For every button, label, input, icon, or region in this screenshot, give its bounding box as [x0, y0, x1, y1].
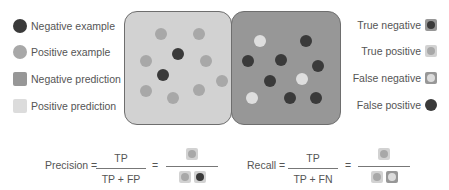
false-negative-icon [425, 72, 437, 84]
recall-denominator: TP + FN [293, 172, 332, 186]
true-positive-icon [425, 45, 437, 57]
recall-visual-numerator [378, 148, 390, 162]
fraction-bar [96, 168, 146, 169]
true-positive-dot [167, 92, 179, 104]
precision-equals: = [152, 159, 158, 171]
recall-visual-denominator [371, 170, 398, 184]
legend-label: False negative [353, 72, 421, 84]
positive-prediction-region [124, 11, 232, 125]
precision-label: Precision = [45, 159, 97, 171]
true-positive-dot [193, 28, 205, 40]
false-positive-icon [194, 171, 206, 183]
false-negative-dot [296, 73, 308, 85]
legend-label: True negative [357, 19, 421, 31]
precision-fraction: TP TP + FP [96, 151, 146, 186]
false-negative-dot [246, 92, 258, 104]
legend-negative-prediction: Negative prediction [13, 72, 121, 86]
true-negative-dot [275, 54, 287, 66]
true-positive-dot [140, 55, 152, 67]
precision-visual-numerator [186, 148, 198, 162]
negative-example-icon [13, 19, 27, 33]
legend-positive-prediction: Positive prediction [13, 99, 116, 113]
positive-example-icon [13, 45, 27, 59]
true-negative-dot [284, 92, 296, 104]
legend-true-positive: True positive [361, 45, 437, 57]
recall-numerator: TP [306, 151, 319, 165]
true-negative-dot [300, 35, 312, 47]
legend-label: True positive [361, 45, 421, 57]
true-negative-icon [425, 19, 437, 31]
false-positive-dot [157, 69, 169, 81]
true-positive-icon [186, 148, 198, 160]
negative-prediction-region [231, 11, 341, 125]
false-positive-icon [425, 99, 437, 111]
legend-label: Positive example [31, 46, 110, 58]
positive-prediction-icon [13, 99, 27, 113]
true-positive-dot [200, 55, 212, 67]
true-negative-dot [310, 92, 322, 104]
true-positive-dot [140, 85, 152, 97]
false-positive-dot [172, 48, 184, 60]
true-negative-dot [264, 75, 276, 87]
recall-visual-fraction [358, 148, 410, 184]
true-positive-dot [155, 28, 167, 40]
legend-true-negative: True negative [357, 19, 437, 31]
recall-label: Recall = [247, 159, 285, 171]
precision-numerator: TP [114, 151, 127, 165]
negative-prediction-icon [13, 72, 27, 86]
true-negative-dot [242, 55, 254, 67]
fraction-bar [358, 166, 410, 167]
true-negative-dot [312, 60, 324, 72]
false-negative-dot [254, 35, 266, 47]
fraction-bar [166, 166, 218, 167]
legend-label: False positive [357, 99, 421, 111]
legend-positive-example: Positive example [13, 45, 110, 59]
legend-negative-example: Negative example [13, 19, 115, 33]
true-positive-icon [371, 171, 383, 183]
true-positive-icon [378, 148, 390, 160]
precision-denominator: TP + FP [102, 172, 141, 186]
precision-visual-denominator [179, 170, 206, 184]
legend-label: Positive prediction [31, 100, 116, 112]
true-positive-dot [216, 75, 228, 87]
legend-label: Negative example [31, 20, 115, 32]
precision-visual-fraction [166, 148, 218, 184]
fraction-bar [288, 168, 338, 169]
legend-false-positive: False positive [357, 99, 437, 111]
false-negative-icon [386, 171, 398, 183]
legend-false-negative: False negative [353, 72, 437, 84]
recall-equals: = [345, 159, 351, 171]
true-positive-dot [193, 84, 205, 96]
recall-fraction: TP TP + FN [288, 151, 338, 186]
true-positive-icon [179, 171, 191, 183]
legend-label: Negative prediction [31, 73, 121, 85]
